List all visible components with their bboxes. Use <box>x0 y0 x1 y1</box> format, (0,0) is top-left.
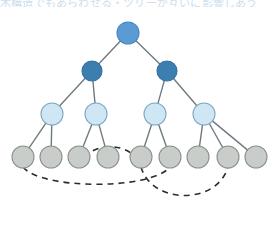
tree-node-level2 <box>82 61 102 81</box>
tree-node-level3 <box>193 103 215 125</box>
tree-edge <box>99 124 106 148</box>
dashed-link <box>23 167 170 184</box>
tree-edge <box>144 124 152 148</box>
tree-edge <box>199 124 202 147</box>
tree-graph <box>0 0 279 235</box>
tree-node-level3 <box>41 103 63 125</box>
tree-node-leaf <box>159 146 181 168</box>
tree-edge <box>98 40 121 64</box>
tree-node-level2 <box>157 61 177 81</box>
tree-node-level3 <box>144 103 166 125</box>
tree-node-leaf <box>97 146 119 168</box>
tree-edge <box>158 80 165 105</box>
tree-edge <box>59 78 86 107</box>
tree-edge <box>209 123 223 149</box>
tree-node-leaf <box>40 146 62 168</box>
tree-node-leaf <box>245 146 267 168</box>
tree-edge <box>83 123 93 147</box>
tree-edge <box>158 123 166 147</box>
tree-node-leaf <box>130 146 152 168</box>
tree-node-root <box>117 22 139 44</box>
tree-node-leaf <box>217 146 239 168</box>
tree-node-level3 <box>85 103 107 125</box>
edges-layer <box>29 40 249 151</box>
dashed-link <box>141 167 228 196</box>
tree-node-leaf <box>68 146 90 168</box>
tree-edge <box>29 122 47 148</box>
tree-edge <box>51 124 52 147</box>
tree-node-leaf <box>187 146 209 168</box>
tree-diagram-figure: 木構造でもあらわせる・ツリーが互いに影響しあう <box>0 0 279 235</box>
tree-edge <box>173 78 198 107</box>
tree-node-leaf <box>12 146 34 168</box>
tree-edge <box>135 40 160 65</box>
tree-edge <box>93 80 95 104</box>
